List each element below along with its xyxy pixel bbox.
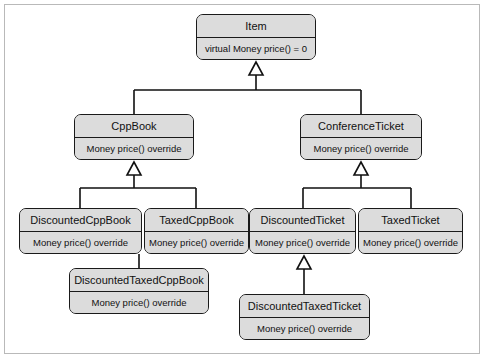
class-name-discountedtaxedticket: DiscountedTaxedTicket [240, 295, 369, 318]
class-operation-discountedtaxedcppbook: Money price() override [70, 292, 208, 314]
class-box-discountedtaxedticket[interactable]: DiscountedTaxedTicket Money price() over… [239, 294, 370, 340]
generalization-item-branch [134, 62, 361, 114]
class-operation-discountedticket: Money price() override [250, 232, 355, 254]
class-box-item[interactable]: Item virtual Money price() = 0 [196, 14, 316, 60]
connector-line [134, 75, 361, 114]
class-operation-cppbook: Money price() override [75, 138, 193, 160]
class-name-taxedcppbook: TaxedCppBook [145, 209, 248, 232]
class-name-discountedticket: DiscountedTicket [250, 209, 355, 232]
class-box-discountedticket[interactable]: DiscountedTicket Money price() override [249, 208, 356, 254]
inheritance-arrowhead-icon [249, 62, 263, 75]
class-operation-taxedcppbook: Money price() override [145, 232, 248, 254]
class-name-item: Item [197, 15, 315, 38]
connector-line [303, 175, 411, 208]
inheritance-arrowhead-icon [354, 162, 368, 175]
inheritance-arrowhead-icon [127, 162, 141, 175]
class-box-discountedcppbook[interactable]: DiscountedCppBook Money price() override [19, 208, 142, 254]
class-box-taxedcppbook[interactable]: TaxedCppBook Money price() override [144, 208, 249, 254]
class-operation-discountedtaxedticket: Money price() override [240, 318, 369, 340]
inheritance-arrowhead-icon [297, 256, 311, 269]
class-name-cppbook: CppBook [75, 115, 193, 138]
generalization-discountedtaxedticket-branch [297, 256, 311, 294]
class-operation-conferenceticket: Money price() override [301, 138, 421, 160]
class-operation-discountedcppbook: Money price() override [20, 232, 141, 254]
class-operation-taxedticket: Money price() override [359, 232, 462, 254]
class-name-taxedticket: TaxedTicket [359, 209, 462, 232]
class-name-discountedcppbook: DiscountedCppBook [20, 209, 141, 232]
generalization-cppbook-branch [80, 162, 196, 208]
class-box-taxedticket[interactable]: TaxedTicket Money price() override [358, 208, 463, 254]
class-name-conferenceticket: ConferenceTicket [301, 115, 421, 138]
class-box-discountedtaxedcppbook[interactable]: DiscountedTaxedCppBook Money price() ove… [69, 268, 209, 314]
connector-line [80, 175, 196, 208]
class-box-cppbook[interactable]: CppBook Money price() override [74, 114, 194, 160]
uml-class-diagram: Item virtual Money price() = 0 CppBook M… [0, 0, 484, 358]
class-name-discountedtaxedcppbook: DiscountedTaxedCppBook [70, 269, 208, 292]
generalization-conferenceticket-branch [303, 162, 411, 208]
class-box-conferenceticket[interactable]: ConferenceTicket Money price() override [300, 114, 422, 160]
class-operation-item: virtual Money price() = 0 [197, 38, 315, 60]
